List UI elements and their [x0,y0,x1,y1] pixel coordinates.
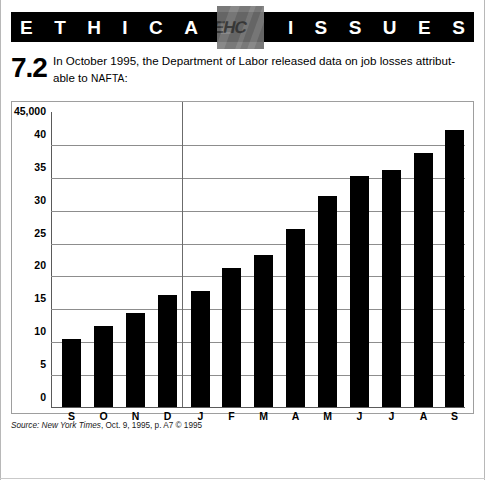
exercise-text-line1: In October 1995, the Department of Labor… [53,54,455,67]
bar-apr-1996 [286,229,305,408]
bar-aug-1996 [414,153,433,408]
x-tick-label-12: S [445,410,464,422]
bar-jul-1996 [382,170,401,408]
bar-series [51,112,465,408]
x-tick-label-3: D [158,410,177,422]
bar-jun-1996 [350,176,369,408]
y-tick-label-15: 15 [34,293,46,304]
bar-sep-1995 [62,339,81,408]
bar-may-1996 [318,196,337,408]
bar-dec-1995 [158,295,177,408]
x-tick-label-1: O [94,410,113,422]
x-tick-label-5: F [222,410,241,422]
x-tick-label-2: N [126,410,145,422]
exercise-text-line2b: : [125,71,128,84]
y-tick-label-40: 40 [34,129,46,140]
nafta-job-losses-chart: 45,000 40 35 30 25 20 15 10 5 0 [11,101,474,414]
banner-letter-a: A [184,18,198,37]
bar-nov-1995 [126,313,145,408]
y-tick-label-30: 30 [34,195,46,206]
banner-letter-e1: E [20,18,33,37]
y-tick-label-10: 10 [34,326,46,337]
exercise-acronym-nafta: NAFTA [91,73,125,84]
y-tick-label-45000: 45,000 [14,106,46,117]
x-tick-label-0: S [62,410,81,422]
banner-letter-i2: I [288,18,293,37]
banner-letter-t: T [54,18,66,37]
x-tick-label-9: J [350,410,369,422]
source-label: Source: [11,421,39,430]
banner-letter-s1: S [315,18,328,37]
banner-letter-i1: I [122,18,127,37]
x-tick-label-10: J [382,410,401,422]
bar-jan-1996 [191,291,210,408]
scan-watermark-artifact: EHC [217,6,264,49]
watermark-ghost-text: EHC [217,18,248,38]
bar-sep-1996 [445,130,464,408]
banner-letter-s2: S [349,18,362,37]
x-tick-label-6: M [254,410,273,422]
x-axis-labels: S O N D J F M A M J J A S [51,410,465,428]
x-tick-label-4: J [191,410,210,422]
y-axis-labels: 45,000 40 35 30 25 20 15 10 5 0 [12,102,50,415]
x-tick-label-8: M [318,410,337,422]
ethical-issues-banner: E T H I C A L I S S U E S EHC [11,12,474,42]
banner-letter-h: H [87,18,101,37]
banner-letter-u: U [383,18,397,37]
bar-feb-1996 [222,268,241,408]
page-content: E T H I C A L I S S U E S EHC 7.2 In Oct… [11,0,474,431]
x-tick-label-11: A [414,410,433,422]
plot-area [51,112,465,408]
y-tick-label-5: 5 [40,359,46,370]
bar-oct-1995 [94,326,113,408]
y-tick-label-20: 20 [34,260,46,271]
exercise-text: In October 1995, the Department of Labor… [53,53,474,87]
exercise-number: 7.2 [11,54,47,82]
x-tick-label-7: A [286,410,305,422]
banner-letter-s3: S [452,18,465,37]
y-tick-label-25: 25 [34,228,46,239]
banner-letter-c: C [149,18,163,37]
page-bottom-rule [0,478,485,479]
banner-letter-e2: E [418,18,431,37]
y-tick-label-0: 0 [40,392,46,403]
y-tick-label-35: 35 [34,162,46,173]
exercise-text-line2a: able to [53,71,91,84]
x-axis-line [51,407,465,408]
year-divider-line [182,102,183,408]
bar-mar-1996 [254,255,273,408]
exercise-intro: 7.2 In October 1995, the Department of L… [11,53,474,91]
